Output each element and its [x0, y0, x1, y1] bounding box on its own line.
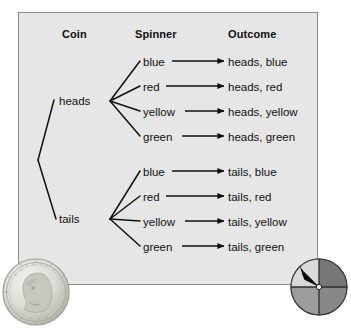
diagram-canvas: Coin Spinner Outcome heads tails blue re… — [0, 0, 351, 329]
four-sector-spinner-icon — [290, 258, 348, 316]
outcome-node-tails-yellow: tails, yellow — [228, 216, 287, 229]
us-quarter-coin-icon — [2, 257, 70, 327]
spinner-node-tails-green: green — [143, 241, 172, 254]
spinner-node-heads-red: red — [143, 81, 160, 94]
coin-node-heads: heads — [59, 95, 90, 108]
outcome-node-tails-red: tails, red — [228, 191, 271, 204]
column-header-outcome: Outcome — [228, 28, 276, 40]
spinner-node-heads-green: green — [143, 131, 172, 144]
outcome-node-heads-blue: heads, blue — [228, 56, 287, 69]
spinner-node-heads-yellow: yellow — [143, 106, 175, 119]
outcome-node-tails-green: tails, green — [228, 241, 284, 254]
spinner-node-tails-blue: blue — [143, 166, 165, 179]
outcome-node-tails-blue: tails, blue — [228, 166, 277, 179]
column-header-spinner: Spinner — [135, 28, 177, 40]
outcome-node-heads-yellow: heads, yellow — [228, 106, 298, 119]
spinner-node-tails-yellow: yellow — [143, 216, 175, 229]
coin-node-tails: tails — [59, 213, 79, 226]
spinner-node-tails-red: red — [143, 191, 160, 204]
spinner-node-heads-blue: blue — [143, 56, 165, 69]
outcome-node-heads-red: heads, red — [228, 81, 282, 94]
outcome-node-heads-green: heads, green — [228, 131, 295, 144]
column-header-coin: Coin — [62, 28, 87, 40]
